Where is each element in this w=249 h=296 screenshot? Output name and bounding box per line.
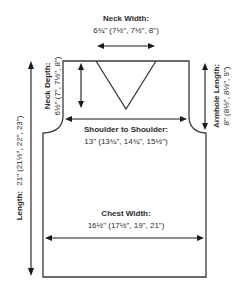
neck-depth-value: 6½" (7", 7½", 8")	[53, 56, 62, 115]
shoulder-to-shoulder-arrow	[65, 116, 187, 122]
neck-width-value: 6¾" (7½", 7½", 8")	[93, 26, 159, 35]
armhole-length-arrow	[202, 63, 208, 130]
neck-width-arrow	[97, 43, 155, 49]
neck-depth-label: Neck Depth:	[43, 63, 52, 110]
armhole-length-label: Armhole Length:	[212, 64, 221, 128]
length-value: 21" (21½", 22", 23")	[15, 115, 24, 185]
sweater-schematic: Neck Width: 6¾" (7½", 7½", 8") Neck Dept…	[0, 0, 249, 296]
v-neck-outline	[96, 61, 156, 109]
shoulder-to-shoulder-value: 13" (13¾", 14¾", 15½")	[84, 137, 168, 146]
armhole-length-value: 8" (8½", 8½", 9")	[222, 66, 231, 125]
chest-width-value: 16½" (17½", 19", 21")	[88, 221, 165, 230]
length-text: Length: 21" (21½", 22", 23")	[15, 115, 24, 220]
chest-width-label: Chest Width:	[101, 209, 150, 218]
neck-width-label: Neck Width:	[103, 14, 149, 23]
body-outline	[43, 61, 206, 277]
chest-width-arrow	[45, 235, 204, 241]
shoulder-to-shoulder-label: Shoulder to Shoulder:	[84, 125, 168, 134]
neck-depth-arrow	[78, 63, 84, 108]
length-arrow	[28, 61, 34, 276]
length-label: Length:	[15, 191, 24, 220]
